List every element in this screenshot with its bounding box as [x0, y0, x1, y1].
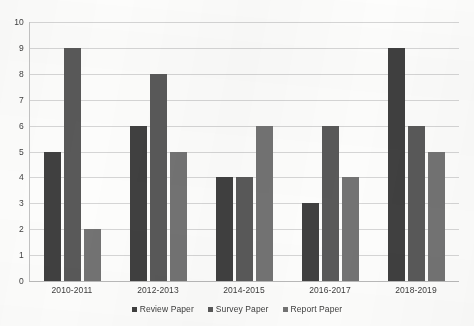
bar[interactable]	[342, 177, 359, 281]
x-axis-baseline	[29, 281, 459, 282]
bar[interactable]	[64, 48, 81, 281]
legend-item[interactable]: Survey Paper	[208, 304, 269, 314]
y-axis-tick-label: 7	[0, 95, 24, 105]
bar[interactable]	[256, 126, 273, 281]
bar[interactable]	[408, 126, 425, 281]
y-axis-tick-label: 2	[0, 224, 24, 234]
legend-swatch-icon	[132, 307, 137, 312]
legend-label: Report Paper	[291, 304, 343, 314]
y-axis: 109876543210	[0, 0, 24, 326]
bars-layer	[29, 22, 459, 281]
bar[interactable]	[216, 177, 233, 281]
legend-item[interactable]: Review Paper	[132, 304, 194, 314]
bar[interactable]	[388, 48, 405, 281]
bar[interactable]	[236, 177, 253, 281]
bar[interactable]	[150, 74, 167, 281]
legend-item[interactable]: Report Paper	[283, 304, 343, 314]
y-axis-tick-label: 3	[0, 198, 24, 208]
y-axis-tick-label: 1	[0, 250, 24, 260]
y-axis-tick-label: 9	[0, 43, 24, 53]
bar[interactable]	[44, 152, 61, 282]
bar-group	[373, 22, 459, 281]
bar-group	[29, 22, 115, 281]
legend-swatch-icon	[208, 307, 213, 312]
legend-label: Survey Paper	[216, 304, 269, 314]
bar-group	[115, 22, 201, 281]
bar[interactable]	[428, 152, 445, 282]
x-axis-category-label: 2016-2017	[287, 285, 373, 299]
x-axis-category-label: 2010-2011	[29, 285, 115, 299]
x-axis-category-label: 2014-2015	[201, 285, 287, 299]
chart-legend: Review PaperSurvey PaperReport Paper	[0, 304, 474, 314]
legend-label: Review Paper	[140, 304, 194, 314]
bar-group	[287, 22, 373, 281]
bar[interactable]	[322, 126, 339, 281]
bar[interactable]	[130, 126, 147, 281]
plot-area	[29, 22, 459, 281]
bar-chart: 109876543210 2010-20112012-20132014-2015…	[0, 0, 474, 326]
y-axis-tick-label: 4	[0, 172, 24, 182]
bar[interactable]	[302, 203, 319, 281]
y-axis-tick-label: 6	[0, 121, 24, 131]
bar[interactable]	[84, 229, 101, 281]
x-axis-category-label: 2018-2019	[373, 285, 459, 299]
y-axis-tick-label: 5	[0, 147, 24, 157]
y-axis-tick-label: 8	[0, 69, 24, 79]
y-axis-tick-label: 10	[0, 17, 24, 27]
y-axis-tick-label: 0	[0, 276, 24, 286]
x-axis-category-label: 2012-2013	[115, 285, 201, 299]
bar-group	[201, 22, 287, 281]
legend-swatch-icon	[283, 307, 288, 312]
x-axis-categories: 2010-20112012-20132014-20152016-20172018…	[29, 285, 459, 299]
bar[interactable]	[170, 152, 187, 282]
